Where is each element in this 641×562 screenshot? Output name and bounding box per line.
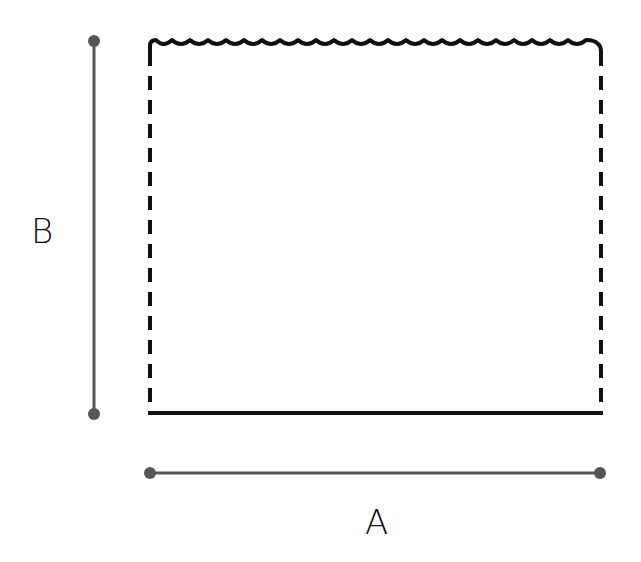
dimension-label-a: A <box>365 505 388 539</box>
pattern-diagram <box>0 0 641 562</box>
endpoint-dot <box>88 35 100 47</box>
endpoint-dot <box>594 467 606 479</box>
dimension-line-a <box>144 467 606 479</box>
scalloped-top-edge <box>150 40 601 52</box>
dimension-label-b: B <box>31 214 53 248</box>
dimension-line-b <box>88 35 100 420</box>
endpoint-dot <box>144 467 156 479</box>
endpoint-dot <box>88 408 100 420</box>
